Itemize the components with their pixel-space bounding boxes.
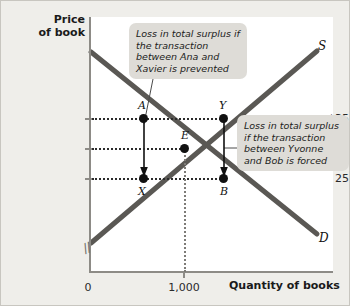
supply-curve-label: S (318, 39, 326, 53)
origin-label: 0 (75, 281, 101, 294)
guide-line-price-25 (92, 178, 225, 180)
point-label-b: B (220, 185, 228, 198)
callout-yvonne-bob: Loss in total surplus if the transaction… (237, 115, 349, 171)
y-axis (89, 17, 91, 273)
guide-line-price-30 (92, 148, 185, 150)
y-tick-mark-30 (85, 148, 92, 150)
point-marker-y (219, 114, 228, 123)
y-tick-mark-25 (85, 178, 92, 180)
y-tick-label-25: 25 (265, 172, 349, 185)
y-axis-title-line2: of book (9, 26, 85, 39)
point-marker-b (219, 174, 228, 183)
guide-line-quantity-1000 (184, 148, 186, 272)
point-label-a: A (138, 99, 146, 112)
x-tick-mark-1000 (183, 271, 185, 278)
callout-ana-xavier: Loss in total surplus if the transaction… (129, 23, 247, 79)
point-label-y: Y (219, 99, 226, 112)
guide-line-price-35 (92, 118, 225, 120)
point-marker-e (180, 144, 189, 153)
supply-demand-figure: // Price of book Quantity of books $35 3… (0, 0, 350, 306)
x-axis-title: Quantity of books (229, 279, 340, 292)
y-axis-title: Price of book (9, 13, 85, 39)
demand-curve-label: D (319, 231, 329, 245)
point-marker-x (139, 174, 148, 183)
y-axis-title-line1: Price (9, 13, 85, 26)
point-label-x: X (138, 185, 146, 198)
y-tick-mark-35 (85, 118, 92, 120)
point-label-e: E (181, 129, 189, 142)
point-marker-a (139, 114, 148, 123)
x-axis (89, 271, 333, 273)
x-tick-label-1000: 1,000 (161, 281, 207, 294)
